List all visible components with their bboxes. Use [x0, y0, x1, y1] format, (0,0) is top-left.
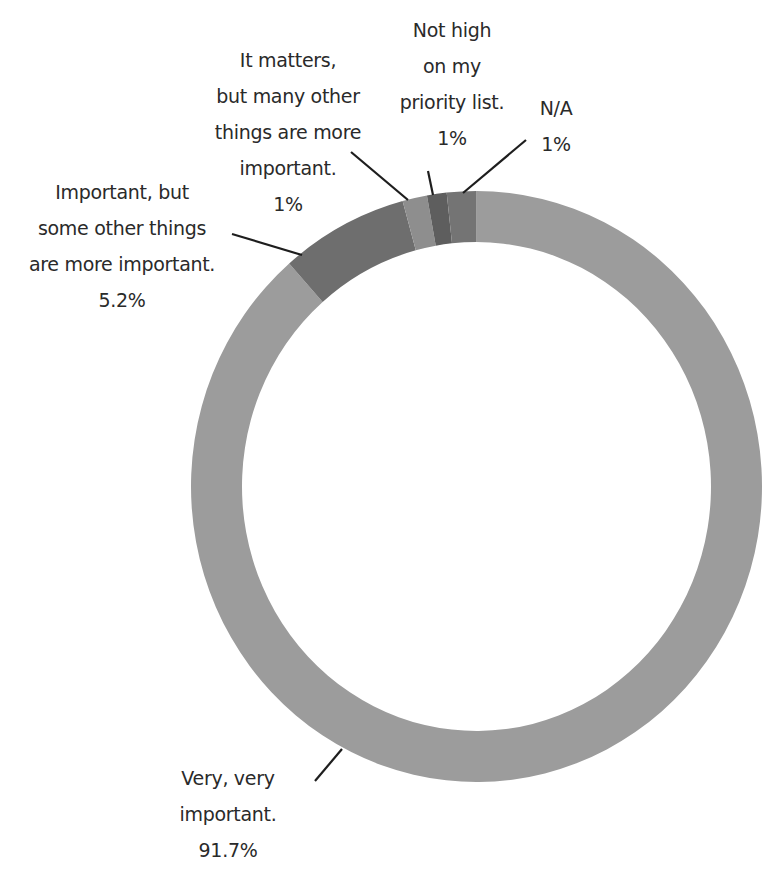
leader-line-important-but [232, 234, 302, 255]
label-na: N/A 1% [540, 90, 573, 162]
segment-very-important [191, 191, 762, 782]
label-line: but many other [215, 78, 361, 114]
label-line: Very, very [180, 760, 277, 796]
label-percent: 1% [215, 186, 361, 222]
label-line: important. [180, 796, 277, 832]
label-line: on my [400, 48, 504, 84]
donut-chart [0, 0, 774, 869]
label-percent: 1% [540, 126, 573, 162]
label-percent: 1% [400, 120, 504, 156]
label-percent: 5.2% [29, 282, 215, 318]
label-very-important: Very, very important. 91.7% [180, 760, 277, 868]
label-line: important. [215, 150, 361, 186]
label-important-but: Important, but some other things are mor… [29, 174, 215, 318]
leader-line-not-high [428, 171, 433, 195]
label-it-matters: It matters, but many other things are mo… [215, 42, 361, 222]
label-not-high: Not high on my priority list. 1% [400, 12, 504, 156]
label-line: priority list. [400, 84, 504, 120]
leader-line-very-important [315, 749, 342, 781]
label-line: some other things [29, 210, 215, 246]
donut-segments [191, 191, 762, 782]
label-percent: 91.7% [180, 832, 277, 868]
label-line: Important, but [29, 174, 215, 210]
label-line: It matters, [215, 42, 361, 78]
label-line: Not high [400, 12, 504, 48]
label-line: N/A [540, 90, 573, 126]
label-line: are more important. [29, 246, 215, 282]
label-line: things are more [215, 114, 361, 150]
